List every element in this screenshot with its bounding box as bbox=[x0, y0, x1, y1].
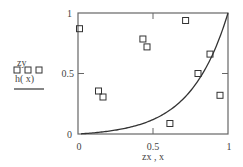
hx-curve bbox=[81, 13, 228, 134]
data-point-square-icon bbox=[217, 92, 223, 98]
series-zy-scatter bbox=[77, 18, 224, 127]
y-tick-label-1: 1 bbox=[67, 8, 72, 19]
data-point-square-icon bbox=[195, 71, 201, 77]
data-point-square-icon bbox=[167, 121, 173, 127]
data-point-square-icon bbox=[96, 88, 102, 94]
x-axis-labels: 0 0.5 1 zx , x bbox=[77, 141, 232, 162]
legend-label-zy: zy bbox=[17, 57, 26, 68]
chart: zy h( x) 1 0.5 0 0 0.5 1 zx , x bbox=[0, 0, 243, 167]
series-hx-line bbox=[81, 13, 228, 134]
data-point-square-icon bbox=[183, 18, 189, 24]
x-axis-title: zx , x bbox=[142, 151, 164, 162]
plot-area bbox=[78, 13, 228, 134]
legend: zy h( x) bbox=[14, 57, 44, 89]
x-tick-label-0: 0 bbox=[77, 141, 82, 152]
y-tick-label-0: 0 bbox=[67, 129, 72, 140]
y-tick-label-0-5: 0.5 bbox=[62, 68, 75, 79]
y-axis-labels: 1 0.5 0 bbox=[62, 8, 75, 140]
data-point-square-icon bbox=[140, 36, 146, 42]
x-tick-label-1: 1 bbox=[227, 141, 232, 152]
data-point-square-icon bbox=[144, 44, 150, 50]
data-point-square-icon bbox=[100, 94, 106, 100]
plot-frame bbox=[78, 13, 228, 134]
legend-label-hx: h( x) bbox=[15, 73, 34, 85]
